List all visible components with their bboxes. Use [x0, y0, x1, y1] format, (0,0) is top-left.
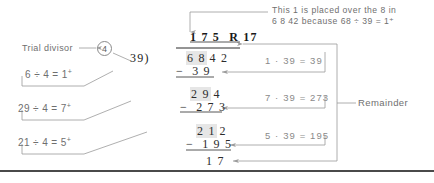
trial-divisor-to-divisor-line [113, 53, 131, 61]
step-row-5: − 1 9 5 [186, 137, 232, 152]
remainder-label: Remainder [358, 97, 408, 108]
step-highlight-4: 2 1 [196, 124, 217, 138]
step-value-4-tail: 2 [220, 124, 227, 138]
long-division-diagram: This 1 is placed over the 8 in 6 8 42 be… [0, 0, 434, 183]
right-calc-2: 7 · 39 = 273 [265, 92, 329, 103]
right-calc-3: 5 · 39 = 195 [265, 130, 329, 141]
minus-sign-3: − [180, 100, 188, 114]
left-note-3-text: 21 ÷ 4 = 5 [18, 137, 67, 148]
divisor-group: 39) [130, 51, 150, 66]
left-note-2: 29 ÷ 4 = 7+ [18, 100, 71, 114]
quotient-remainder-label: R 17 [229, 30, 257, 44]
minus-sign-5: − [186, 137, 194, 151]
quotient-digits: 1 7 5 [190, 30, 220, 44]
step-highlight-2: 2 9 [190, 87, 211, 101]
step-value-2-tail: 4 [214, 87, 221, 101]
division-bracket: ) [144, 51, 149, 65]
trial-divisor-label: Trial divisor [22, 43, 73, 54]
top-note-line-1: This 1 is placed over the 8 in [272, 5, 396, 16]
left-note-3: 21 ÷ 4 = 5+ [18, 134, 71, 148]
step-value-5: 1 9 5 [202, 137, 232, 151]
step-row-3: − 2 7 3 [180, 100, 226, 115]
minus-sign-1: − [176, 64, 184, 78]
left-note-2-sup: + [67, 102, 71, 109]
left-note-2-text: 29 ÷ 4 = 7 [18, 103, 67, 114]
step-value-1: 3 9 [192, 64, 211, 78]
step-value-3: 2 7 3 [196, 100, 226, 114]
step-row-1: − 3 9 [176, 64, 211, 79]
left-note-1-text: 6 ÷ 4 = 1 [25, 69, 68, 80]
top-note-pointer [190, 12, 268, 32]
left-note-3-sup: + [67, 136, 71, 143]
left-note-1-sup: + [68, 68, 72, 75]
left-note-1: 6 ÷ 4 = 1+ [25, 66, 72, 80]
divisor: 39 [130, 51, 144, 65]
dividend-remaining-digits: 4 2 [210, 51, 229, 65]
quotient: 1 7 5 R 17 [190, 30, 258, 45]
top-note-line-2: 6 8 42 because 68 ÷ 39 = 1⁺ [272, 16, 395, 27]
bottom-rule [0, 170, 434, 172]
right-calc-1: 1 · 39 = 39 [265, 55, 323, 66]
dividend-highlighted-digits: 6 8 [186, 51, 207, 65]
trial-divisor-value: 4 [97, 41, 112, 56]
final-remainder: 1 7 [206, 154, 225, 169]
